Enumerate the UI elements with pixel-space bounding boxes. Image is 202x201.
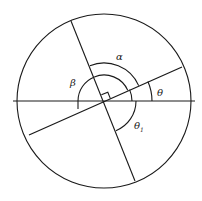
angle-diagram: α β θ θ1 bbox=[0, 0, 202, 201]
right-angle-marker-icon bbox=[101, 92, 110, 98]
theta1-label: θ1 bbox=[134, 120, 144, 133]
inner-arc-right bbox=[130, 90, 132, 101]
beta-arc-top bbox=[94, 75, 128, 90]
beta-label: β bbox=[69, 77, 76, 88]
theta-arc bbox=[148, 82, 152, 102]
theta1-arc bbox=[116, 101, 136, 131]
alpha-arc bbox=[90, 63, 139, 86]
theta-label: θ bbox=[157, 87, 163, 98]
theta1-label-sub: 1 bbox=[140, 126, 144, 133]
alpha-label: α bbox=[116, 51, 123, 62]
beta-arc-left bbox=[78, 77, 94, 101]
